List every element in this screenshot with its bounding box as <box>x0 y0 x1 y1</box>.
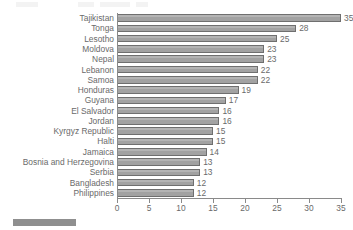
bar <box>117 127 213 135</box>
x-axis-tick-label: 0 <box>115 204 120 213</box>
category-label: Halti <box>97 137 114 146</box>
plot-area: Tajikistan35Tonga28Lesotho25Moldova23Nep… <box>117 13 341 198</box>
category-label: Tonga <box>91 24 114 33</box>
bar <box>117 148 207 156</box>
category-label: Honduras <box>78 86 114 95</box>
category-label: Philippines <box>73 188 114 197</box>
bar <box>117 107 219 115</box>
bar <box>117 138 213 146</box>
bar <box>117 179 194 187</box>
x-axis-tick-label: 35 <box>336 204 345 213</box>
x-axis-tick-label: 15 <box>208 204 217 213</box>
x-axis-tick-label: 5 <box>147 204 152 213</box>
value-label: 16 <box>222 106 231 115</box>
cropped-text-artifact <box>78 2 94 7</box>
category-label: Lesotho <box>84 34 114 43</box>
x-axis-tick-label: 20 <box>240 204 249 213</box>
bar-row: Honduras19 <box>117 86 341 94</box>
bar <box>117 14 341 22</box>
bar-row: Guyana17 <box>117 97 341 105</box>
value-label: 22 <box>261 75 270 84</box>
value-label: 28 <box>299 24 308 33</box>
category-label: Samoa <box>87 75 114 84</box>
category-label: Jamaica <box>83 147 114 156</box>
category-label: Bangladesh <box>70 178 114 187</box>
bar-row: Moldova23 <box>117 45 341 53</box>
value-label: 16 <box>222 116 231 125</box>
bar-row: Samoa22 <box>117 76 341 84</box>
category-label: El Salvador <box>71 106 114 115</box>
cropped-text-artifact <box>136 2 148 7</box>
bar-row: Bangladesh12 <box>117 179 341 187</box>
bar <box>117 55 264 63</box>
value-label: 12 <box>197 178 206 187</box>
category-label: Serbia <box>90 168 114 177</box>
category-label: Moldova <box>82 44 114 53</box>
bar <box>117 76 258 84</box>
category-label: Lebanon <box>81 65 114 74</box>
bar-row: Tonga28 <box>117 25 341 33</box>
bar-row: Kyrgyz Republic15 <box>117 127 341 135</box>
value-label: 23 <box>267 44 276 53</box>
legend-swatch <box>13 219 76 226</box>
value-label: 15 <box>216 127 225 136</box>
bar <box>117 169 200 177</box>
category-label: Jordan <box>88 116 114 125</box>
bar-row: Tajikistan35 <box>117 14 341 22</box>
x-axis-tick-label: 25 <box>272 204 281 213</box>
category-label: Kyrgyz Republic <box>53 127 114 136</box>
bar <box>117 117 219 125</box>
bar <box>117 25 296 33</box>
value-label: 13 <box>203 158 212 167</box>
x-axis-tick-label: 10 <box>176 204 185 213</box>
value-label: 15 <box>216 137 225 146</box>
bar <box>117 97 226 105</box>
bar <box>117 66 258 74</box>
category-label: Bosnia and Herzegovina <box>23 158 114 167</box>
bar-row: Philippines12 <box>117 189 341 197</box>
bar-row: Halti15 <box>117 138 341 146</box>
value-label: 17 <box>229 96 238 105</box>
bar-row: Bosnia and Herzegovina13 <box>117 158 341 166</box>
bar <box>117 45 264 53</box>
cropped-text-artifact <box>100 2 130 7</box>
bar <box>117 158 200 166</box>
bar <box>117 86 239 94</box>
bar <box>117 35 277 43</box>
bar-row: Serbia13 <box>117 169 341 177</box>
value-label: 12 <box>197 188 206 197</box>
bar-row: Nepal23 <box>117 55 341 63</box>
value-label: 13 <box>203 168 212 177</box>
category-label: Guyana <box>85 96 114 105</box>
x-axis-tick-label: 30 <box>304 204 313 213</box>
bar-row: Lebanon22 <box>117 66 341 74</box>
value-label: 19 <box>242 86 251 95</box>
value-label: 23 <box>267 55 276 64</box>
category-label: Nepal <box>92 55 114 64</box>
value-label: 35 <box>344 14 353 23</box>
y-axis-line <box>117 13 118 199</box>
bar-row: Jordan16 <box>117 117 341 125</box>
cropped-text-artifact <box>16 2 38 7</box>
value-label: 14 <box>210 147 219 156</box>
bar-row: Jamaica14 <box>117 148 341 156</box>
value-label: 22 <box>261 65 270 74</box>
value-label: 25 <box>280 34 289 43</box>
bar <box>117 189 194 197</box>
category-label: Tajikistan <box>80 14 114 23</box>
bar-row: Lesotho25 <box>117 35 341 43</box>
bar-row: El Salvador16 <box>117 107 341 115</box>
